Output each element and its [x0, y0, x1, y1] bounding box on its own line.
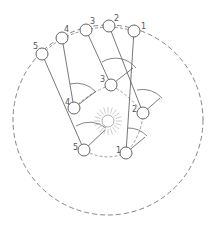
- sun-ray: [114, 126, 119, 130]
- inner-label-2: 2: [132, 105, 137, 114]
- sun-ray: [97, 113, 102, 117]
- sun-ray: [114, 113, 119, 117]
- inner-label-4: 4: [65, 98, 70, 107]
- inner-position-1: [120, 147, 132, 159]
- outer-position-1: [128, 25, 140, 37]
- sun-ray: [116, 117, 122, 119]
- sun-ray: [95, 117, 101, 119]
- angle-arc-1: [128, 128, 147, 136]
- sun-icon: [94, 107, 122, 135]
- inner-label-1: 1: [116, 146, 121, 155]
- inner-position-3: [105, 79, 117, 91]
- sun-ray: [104, 108, 106, 114]
- outer-label-4: 4: [64, 25, 69, 34]
- angle-arc-4: [70, 83, 96, 92]
- sun-ray: [110, 129, 112, 135]
- outer-label-2: 2: [114, 14, 119, 23]
- inner-label-3: 3: [100, 75, 105, 84]
- outer-label-5: 5: [33, 42, 38, 51]
- sun-ray: [113, 110, 117, 115]
- inner-label-5: 5: [73, 143, 78, 152]
- sun-ray: [116, 123, 122, 125]
- outer-label-1: 1: [141, 22, 146, 31]
- angle-arc-5: [76, 122, 106, 128]
- outer-label-3: 3: [90, 17, 95, 26]
- angle-arc-3: [102, 58, 136, 68]
- diagram: 5 4 3 2 1 4 3 2 1 5: [0, 0, 211, 225]
- sun-ray: [110, 108, 112, 114]
- sun-ray: [113, 127, 117, 132]
- line-2: [109, 26, 143, 113]
- line-1: [126, 31, 134, 153]
- sun-ray: [97, 126, 102, 130]
- inner-position-5: [78, 144, 90, 156]
- sun-ray: [100, 110, 104, 115]
- line-3: [86, 30, 111, 85]
- line-5: [42, 54, 84, 150]
- angle-arc-2: [137, 89, 162, 98]
- inner-position-2: [137, 107, 149, 119]
- diagram-canvas: 5 4 3 2 1 4 3 2 1 5: [0, 0, 211, 225]
